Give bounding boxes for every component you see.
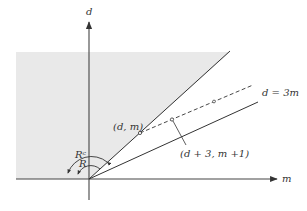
shaded-region (16, 52, 230, 179)
lower-ray-label: d = 3m (262, 87, 299, 98)
point-d3-m1-marker (170, 118, 173, 121)
point-d3-m1-label: (d + 3, m +1) (180, 148, 249, 159)
point-d-m-label: (d, m) (113, 121, 143, 132)
dashed-line-marker (213, 100, 216, 103)
leader-line (173, 121, 186, 145)
inner-angle-label: R (78, 158, 87, 169)
cone-diagram: d m d = 3m (d, m) (d + 3, m +1) Rᶜ R (0, 0, 307, 211)
d-axis-label: d (86, 6, 92, 17)
m-axis-label: m (282, 173, 291, 184)
